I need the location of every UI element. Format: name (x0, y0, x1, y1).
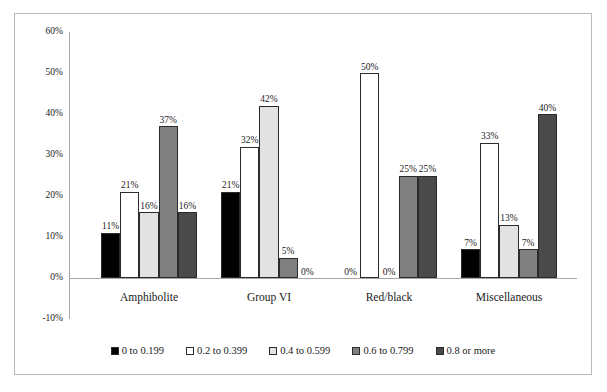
bar-group-bars: 21%32%42%5%0% (221, 32, 317, 278)
bar-value-label: 11% (102, 222, 119, 232)
bar-slot: 50% (360, 32, 379, 278)
y-axis-line (69, 32, 70, 319)
legend-item[interactable]: 0 to 0.199 (111, 346, 164, 357)
legend-item[interactable]: 0.2 to 0.399 (186, 346, 247, 357)
bar-value-label: 13% (500, 214, 517, 224)
bar-group-bars: 0%50%0%25%25% (341, 32, 437, 278)
plot-area: 60%50%40%30%20%10%0%-10% 11%21%16%37%16%… (69, 32, 577, 319)
bar-value-label: 40% (539, 104, 556, 114)
legend-item-label: 0 to 0.199 (122, 346, 164, 357)
bar[interactable]: 50% (360, 73, 379, 278)
legend-swatch-icon (436, 347, 444, 355)
bar[interactable]: 25% (418, 176, 437, 279)
chart-legend: 0 to 0.1990.2 to 0.3990.4 to 0.5990.6 to… (15, 346, 591, 357)
bar-value-label: 0% (344, 268, 357, 278)
bar-slot: 0% (341, 32, 360, 278)
y-axis-tick-label: 60% (46, 27, 63, 37)
legend-item[interactable]: 0.4 to 0.599 (269, 346, 330, 357)
bar[interactable]: 21% (221, 192, 240, 278)
bar-value-label: 33% (481, 132, 498, 142)
bar-slot: 5% (279, 32, 298, 278)
y-axis-tick-label: -10% (42, 314, 63, 324)
category-label: Red/black (341, 292, 437, 304)
category-label: Amphibolite (101, 292, 197, 304)
y-axis-tick-label: 30% (46, 150, 63, 160)
bar-slot: 42% (259, 32, 278, 278)
bar-group: 0%50%0%25%25%Red/black (341, 32, 437, 278)
y-axis-tick-label: 40% (46, 109, 63, 119)
bar[interactable]: 25% (399, 176, 418, 279)
bar-slot: 40% (538, 32, 557, 278)
legend-item-label: 0.2 to 0.399 (197, 346, 247, 357)
bar-value-label: 5% (282, 247, 295, 257)
legend-swatch-icon (186, 347, 194, 355)
bar-slot: 0% (298, 32, 317, 278)
bar-slot: 25% (399, 32, 418, 278)
legend-item-label: 0.4 to 0.599 (280, 346, 330, 357)
bar-slot: 16% (178, 32, 197, 278)
legend-item[interactable]: 0.8 or more (436, 346, 496, 357)
bar-value-label: 25% (419, 165, 436, 175)
bar-value-label: 16% (179, 202, 196, 212)
bar-slot: 16% (139, 32, 158, 278)
bar-group-bars: 7%33%13%7%40% (461, 32, 557, 278)
bar-group: 21%32%42%5%0%Group VI (221, 32, 317, 278)
bar-value-label: 21% (222, 181, 239, 191)
bar-value-label: 32% (241, 136, 258, 146)
bar-value-label: 25% (399, 165, 416, 175)
bar[interactable]: 33% (480, 143, 499, 278)
bar-value-label: 37% (159, 116, 176, 126)
bar-slot: 25% (418, 32, 437, 278)
legend-item[interactable]: 0.6 to 0.799 (352, 346, 413, 357)
bar-slot: 21% (221, 32, 240, 278)
bar-group: 11%21%16%37%16%Amphibolite (101, 32, 197, 278)
bar[interactable]: 7% (519, 249, 538, 278)
y-axis-tick-label: 20% (46, 191, 63, 201)
bar[interactable]: 16% (178, 212, 197, 278)
bar[interactable]: 16% (139, 212, 158, 278)
y-axis-tick-label: 10% (46, 232, 63, 242)
bar[interactable]: 7% (461, 249, 480, 278)
chart-frame: 60%50%40%30%20%10%0%-10% 11%21%16%37%16%… (14, 13, 592, 375)
bar-value-label: 21% (121, 181, 138, 191)
bar[interactable]: 5% (279, 258, 298, 279)
bar-slot: 0% (379, 32, 398, 278)
bar-group: 7%33%13%7%40%Miscellaneous (461, 32, 557, 278)
bar-value-label: 7% (522, 239, 535, 249)
bar[interactable]: 21% (120, 192, 139, 278)
legend-item-label: 0.8 or more (447, 346, 496, 357)
bar-slot: 7% (519, 32, 538, 278)
bar[interactable]: 11% (101, 233, 120, 278)
bar[interactable]: 42% (259, 106, 278, 278)
bar[interactable]: 32% (240, 147, 259, 278)
bar-slot: 21% (120, 32, 139, 278)
y-axis-tick-label: 0% (50, 273, 63, 283)
bar-slot: 11% (101, 32, 120, 278)
bar-value-label: 7% (464, 239, 477, 249)
legend-item-label: 0.6 to 0.799 (363, 346, 413, 357)
legend-swatch-icon (111, 347, 119, 355)
bar-value-label: 0% (383, 268, 396, 278)
bar-value-label: 42% (260, 95, 277, 105)
bar-value-label: 0% (301, 268, 314, 278)
bar-slot: 13% (499, 32, 518, 278)
bar-slot: 32% (240, 32, 259, 278)
y-axis-tick-label: 50% (46, 68, 63, 78)
bar-value-label: 50% (361, 63, 378, 73)
bar-slot: 7% (461, 32, 480, 278)
zero-baseline (69, 278, 577, 279)
category-label: Group VI (221, 292, 317, 304)
legend-swatch-icon (269, 347, 277, 355)
bar[interactable]: 37% (159, 126, 178, 278)
bar-slot: 33% (480, 32, 499, 278)
bar-group-bars: 11%21%16%37%16% (101, 32, 197, 278)
bar[interactable]: 40% (538, 114, 557, 278)
bar[interactable]: 13% (499, 225, 518, 278)
bar-value-label: 16% (140, 202, 157, 212)
bar-slot: 37% (159, 32, 178, 278)
category-label: Miscellaneous (461, 292, 557, 304)
legend-swatch-icon (352, 347, 360, 355)
